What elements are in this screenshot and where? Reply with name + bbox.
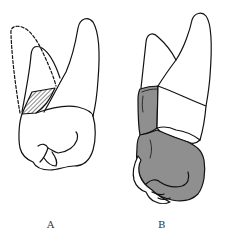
crown-groove-a <box>38 132 78 153</box>
figure-label-a: A <box>47 220 54 230</box>
tooth-a <box>11 19 99 170</box>
tooth-b <box>133 13 211 203</box>
figure-label-b: B <box>158 220 165 230</box>
restoration-post <box>138 86 158 135</box>
dental-diagram <box>0 0 225 237</box>
small-root-b <box>141 34 176 88</box>
large-root-a <box>44 19 99 116</box>
crown-cusp-line-a <box>40 148 57 166</box>
